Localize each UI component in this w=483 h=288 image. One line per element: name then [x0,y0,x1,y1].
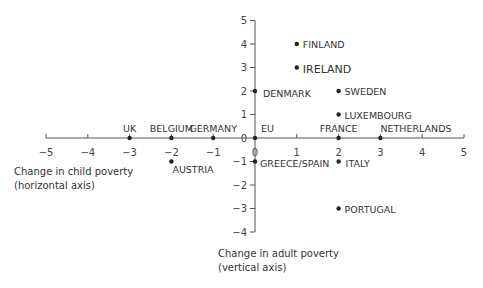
point-label-germany: GERMANY [189,123,237,134]
y-tick-label: 0 [241,133,247,144]
y-tick-label: 2 [241,86,247,97]
data-points: FINLANDIRELANDDENMARKSWEDENLUXEMBOURGUKB… [123,39,452,215]
point-label-austria: AUSTRIA [172,164,214,175]
point-marker-finland [295,42,299,46]
point-label-sweden: SWEDEN [345,86,387,97]
point-marker-germany [211,136,215,140]
point-label-belgium: BELGIUM [150,123,193,134]
point-marker-uk [127,136,131,140]
point-marker-luxembourg [336,112,340,116]
x-tick-label: −4 [80,147,95,158]
point-marker-sweden [336,89,340,93]
point-label-france: FRANCE [320,123,358,134]
point-label-finland: FINLAND [303,39,345,50]
axis-titles: Change in child poverty (horizontal axis… [14,166,339,273]
point-label-netherlands: NETHERLANDS [380,123,451,134]
point-marker-france [336,136,340,140]
point-label-portugal: PORTUGAL [345,204,397,215]
point-marker-portugal [336,206,340,210]
y-tick-label: 4 [241,39,247,50]
x-tick-label: 3 [377,147,383,158]
point-label-eu: EU [261,123,274,134]
x-tick-label: 5 [461,147,467,158]
point-label-denmark: DENMARK [263,88,312,99]
x-tick-label: 4 [419,147,425,158]
point-label-luxembourg: LUXEMBOURG [345,110,412,121]
y-tick-label: 1 [241,109,247,120]
point-label-ireland: IRELAND [303,63,351,76]
x-tick-label: 1 [294,147,300,158]
point-marker-belgium [169,136,173,140]
x-tick-label: −3 [122,147,137,158]
y-axis-title-line1: Change in adult poverty [218,248,339,259]
y-axis-title-line2: (vertical axis) [218,262,286,273]
y-tick-label: −1 [232,156,247,167]
point-label-uk: UK [123,123,137,134]
point-marker-italy [336,159,340,163]
x-tick-label: −1 [206,147,221,158]
x-tick-label: 2 [335,147,341,158]
point-marker-denmark [253,89,257,93]
point-label-italy: ITALY [346,158,370,169]
y-tick-label: −3 [232,203,247,214]
x-tick-label: 0 [252,147,258,158]
point-marker-ireland [295,65,299,69]
x-axis-title-line2: (horizontal axis) [14,180,95,191]
y-tick-label: −4 [232,227,247,238]
x-tick-label: −2 [164,147,179,158]
x-axis-title-line1: Change in child poverty [14,166,133,177]
x-tick-label: −5 [39,147,54,158]
y-tick-label: 3 [241,62,247,73]
scatter-chart: −5−4−3−2−1012345543210−1−2−3−4 FINLANDIR… [0,0,483,288]
point-marker-netherlands [378,136,382,140]
y-tick-label: 5 [241,15,247,26]
y-tick-label: −2 [232,180,247,191]
point-label-greece-spain: GREECE/SPAIN [260,158,329,169]
point-marker-eu [253,136,257,140]
point-marker-greece-spain [253,159,257,163]
